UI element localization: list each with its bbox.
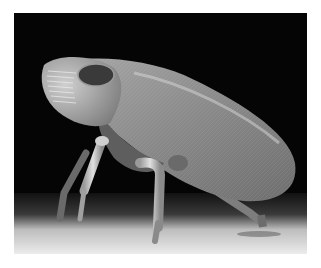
insect-photo: [14, 13, 307, 254]
compound-eye: [78, 64, 114, 86]
front-leg: [84, 141, 102, 191]
middle-tarsus: [155, 223, 158, 241]
shadow: [237, 231, 281, 237]
leafhopper-illustration: [14, 13, 307, 254]
